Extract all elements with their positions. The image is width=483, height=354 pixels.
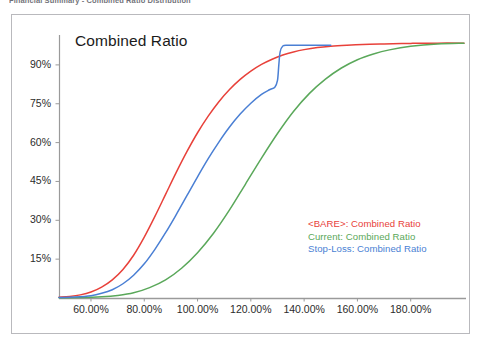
y-tick-label: 45% xyxy=(17,174,51,186)
y-tick-label: 30% xyxy=(17,213,51,225)
x-tick-label: 80.00% xyxy=(114,303,174,315)
legend-entry-bare: <BARE>: Combined Ratio xyxy=(308,218,427,231)
series-line-1 xyxy=(59,43,464,298)
chart-title: Combined Ratio xyxy=(75,32,188,50)
x-tick-label: 60.00% xyxy=(61,303,121,315)
series-line-2 xyxy=(59,45,331,297)
x-tick-label: 120.00% xyxy=(221,303,281,315)
y-tick-label: 60% xyxy=(17,136,51,148)
series-line-0 xyxy=(59,43,464,297)
y-tick-label: 90% xyxy=(17,58,51,70)
y-tick-label: 15% xyxy=(17,252,51,264)
chart-frame: Combined Ratio 15%30%45%60%75%90% 60.00%… xyxy=(11,14,470,334)
screenshot-root: Financial Summary - Combined Ratio Distr… xyxy=(0,0,483,354)
x-tick-label: 140.00% xyxy=(274,303,334,315)
x-tick-label: 160.00% xyxy=(327,303,387,315)
y-tick-label: 75% xyxy=(17,97,51,109)
chart-legend: <BARE>: Combined Ratio Current: Combined… xyxy=(308,218,427,256)
legend-entry-stop-loss: Stop-Loss: Combined Ratio xyxy=(308,243,427,256)
legend-entry-current: Current: Combined Ratio xyxy=(308,231,427,244)
chart-plot-area xyxy=(12,15,471,335)
x-tick-label: 100.00% xyxy=(168,303,228,315)
document-header-text: Financial Summary - Combined Ratio Distr… xyxy=(9,0,309,6)
x-tick-label: 180.00% xyxy=(381,303,441,315)
